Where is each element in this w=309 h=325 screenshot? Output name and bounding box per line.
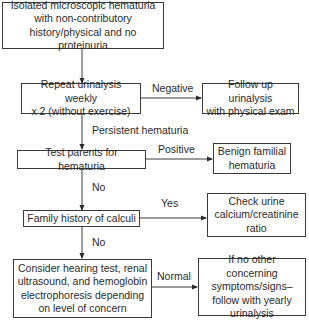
- node-consider-tests: Consider hearing test, renal ultrasound,…: [13, 259, 152, 318]
- node-isolated-hematuria: Isolated microscopic hematuria with non-…: [2, 2, 164, 49]
- node-text: Consider hearing test, renal ultrasound,…: [18, 262, 148, 316]
- node-repeat-urinalysis: Repeat urinalysis weekly x 2 (without ex…: [21, 83, 141, 114]
- edge-label-negative: Negative: [152, 82, 193, 94]
- node-text: Isolated microscopic hematuria with non-…: [6, 0, 160, 53]
- edge-label-positive: Positive: [158, 143, 195, 155]
- node-family-calculi: Family history of calculi: [23, 210, 140, 227]
- node-text: Benign familial hematuria: [218, 145, 286, 172]
- node-benign-familial: Benign familial hematuria: [213, 143, 291, 174]
- node-text: If no other concerning symptoms/signs– f…: [202, 253, 302, 321]
- node-yearly-urinalysis: If no other concerning symptoms/signs– f…: [198, 258, 306, 316]
- node-text: Repeat urinalysis weekly x 2 (without ex…: [25, 78, 137, 119]
- node-text: Follow up urinalysis with physical exam: [206, 78, 295, 119]
- edge-label-yes: Yes: [161, 197, 178, 209]
- edge-label-no-2: No: [92, 236, 105, 248]
- edge-label-persistent-hematuria: Persistent hematuria: [92, 124, 188, 136]
- node-text: Test parents for hematuria: [21, 146, 142, 173]
- edge-label-no-1: No: [92, 181, 105, 193]
- edge-label-normal: Normal: [157, 270, 191, 282]
- node-text: Check urine calcium/creatinine ratio: [214, 195, 298, 236]
- node-follow-up-urinalysis: Follow up urinalysis with physical exam: [202, 83, 299, 114]
- node-text: Family history of calculi: [27, 212, 136, 226]
- node-check-urine: Check urine calcium/creatinine ratio: [207, 193, 306, 237]
- node-test-parents: Test parents for hematuria: [17, 150, 146, 169]
